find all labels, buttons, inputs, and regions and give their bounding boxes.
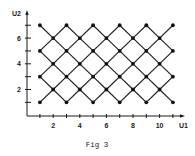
lattice-segment bbox=[53, 77, 66, 90]
lattice-segment bbox=[40, 51, 53, 64]
data-point bbox=[118, 75, 122, 79]
data-point bbox=[38, 49, 42, 53]
lattice-segment bbox=[133, 25, 146, 38]
data-point bbox=[158, 88, 162, 92]
lattice-segment bbox=[160, 64, 173, 77]
data-point bbox=[118, 49, 122, 53]
lattice-segment bbox=[146, 51, 159, 64]
lattice-segment bbox=[67, 77, 80, 90]
lattice-segment bbox=[80, 25, 93, 38]
lattice-segment bbox=[80, 38, 93, 51]
lattice-segment bbox=[53, 38, 66, 51]
data-point bbox=[118, 23, 122, 27]
lattice-segment bbox=[67, 90, 80, 103]
data-point bbox=[51, 88, 55, 92]
figure: 246810 246 U2 U1 Fig 3 bbox=[0, 0, 195, 156]
lattice-segment bbox=[133, 77, 146, 90]
lattice-segment bbox=[146, 25, 159, 38]
lattice-segment bbox=[120, 90, 133, 103]
x-tick-label: 10 bbox=[156, 122, 164, 129]
x-axis-arrow-icon bbox=[180, 114, 185, 117]
lattice-segment bbox=[93, 25, 106, 38]
data-point bbox=[158, 62, 162, 66]
lattice-segment bbox=[53, 25, 66, 38]
lattice-segment bbox=[67, 51, 80, 64]
y-tick-label: 4 bbox=[17, 60, 21, 67]
lattice-segment bbox=[80, 51, 93, 64]
data-point bbox=[65, 100, 69, 104]
x-tick-label: 4 bbox=[78, 122, 82, 129]
data-point bbox=[158, 36, 162, 40]
lattice-segment bbox=[93, 77, 106, 90]
data-point bbox=[91, 49, 95, 53]
lattice-segment bbox=[133, 64, 146, 77]
y-axis-label: U2 bbox=[12, 10, 21, 17]
lattice-segment bbox=[160, 77, 173, 90]
y-tick-label: 6 bbox=[17, 35, 21, 42]
data-point bbox=[91, 23, 95, 27]
lattice-segment bbox=[93, 38, 106, 51]
lattice-segment bbox=[80, 64, 93, 77]
data-point bbox=[38, 100, 42, 104]
lattice-segment bbox=[106, 64, 119, 77]
x-tick-label: 2 bbox=[51, 122, 55, 129]
data-point bbox=[144, 23, 148, 27]
lattice-segment bbox=[93, 90, 106, 103]
data-point bbox=[118, 100, 122, 104]
lattice-segment bbox=[120, 64, 133, 77]
lattice-segment bbox=[40, 64, 53, 77]
lattice-segment bbox=[80, 77, 93, 90]
lattice-segment bbox=[120, 25, 133, 38]
lattice-segment bbox=[93, 51, 106, 64]
data-point bbox=[51, 62, 55, 66]
data-point bbox=[105, 88, 109, 92]
lattice-segment bbox=[67, 38, 80, 51]
data-point bbox=[38, 75, 42, 79]
lattice-segment bbox=[67, 25, 80, 38]
lattice-segment bbox=[146, 90, 159, 103]
lattice-segment bbox=[120, 38, 133, 51]
data-point bbox=[51, 36, 55, 40]
lattice-segment bbox=[40, 25, 53, 38]
data-point bbox=[65, 23, 69, 27]
lattice-segment bbox=[53, 51, 66, 64]
lattice-segment bbox=[133, 38, 146, 51]
lattice-segment bbox=[133, 90, 146, 103]
data-point bbox=[91, 100, 95, 104]
data-point bbox=[131, 36, 135, 40]
lattice-segment bbox=[146, 77, 159, 90]
data-point bbox=[105, 62, 109, 66]
lattice-segment bbox=[133, 51, 146, 64]
lattice-segment bbox=[160, 38, 173, 51]
lattice-segment bbox=[146, 64, 159, 77]
lattice-segment bbox=[120, 77, 133, 90]
x-tick-label: 6 bbox=[104, 122, 108, 129]
data-point bbox=[65, 49, 69, 53]
data-point bbox=[65, 75, 69, 79]
lattice-segment bbox=[106, 77, 119, 90]
data-point bbox=[171, 75, 175, 79]
data-point bbox=[78, 62, 82, 66]
lattice-segment bbox=[40, 90, 53, 103]
y-ticks: 246 bbox=[17, 25, 31, 102]
lattice-segment bbox=[160, 51, 173, 64]
data-point bbox=[144, 49, 148, 53]
data-point bbox=[78, 88, 82, 92]
lattice-segment bbox=[146, 38, 159, 51]
data-point bbox=[91, 75, 95, 79]
data-point bbox=[144, 75, 148, 79]
lattice-segment bbox=[106, 51, 119, 64]
data-point bbox=[131, 88, 135, 92]
figure-caption: Fig 3 bbox=[86, 141, 109, 149]
data-point bbox=[38, 23, 42, 27]
lattice-segment bbox=[160, 90, 173, 103]
data-point bbox=[78, 36, 82, 40]
lattice-segment bbox=[106, 25, 119, 38]
lattice-segment bbox=[106, 38, 119, 51]
data-point bbox=[144, 100, 148, 104]
lattice-segment bbox=[80, 90, 93, 103]
lattice-segment bbox=[160, 25, 173, 38]
x-axis-label: U1 bbox=[179, 122, 188, 129]
lattice-segment bbox=[40, 38, 53, 51]
lattice-segment bbox=[53, 90, 66, 103]
